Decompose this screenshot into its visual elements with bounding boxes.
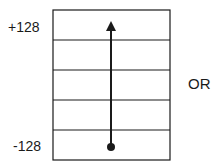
arrow-head-icon xyxy=(106,21,116,31)
or-connector-text: OR xyxy=(188,76,211,91)
arrow-origin-dot xyxy=(107,143,115,151)
scale-min-label: -128 xyxy=(13,139,41,153)
scale-max-label: +128 xyxy=(8,20,40,34)
